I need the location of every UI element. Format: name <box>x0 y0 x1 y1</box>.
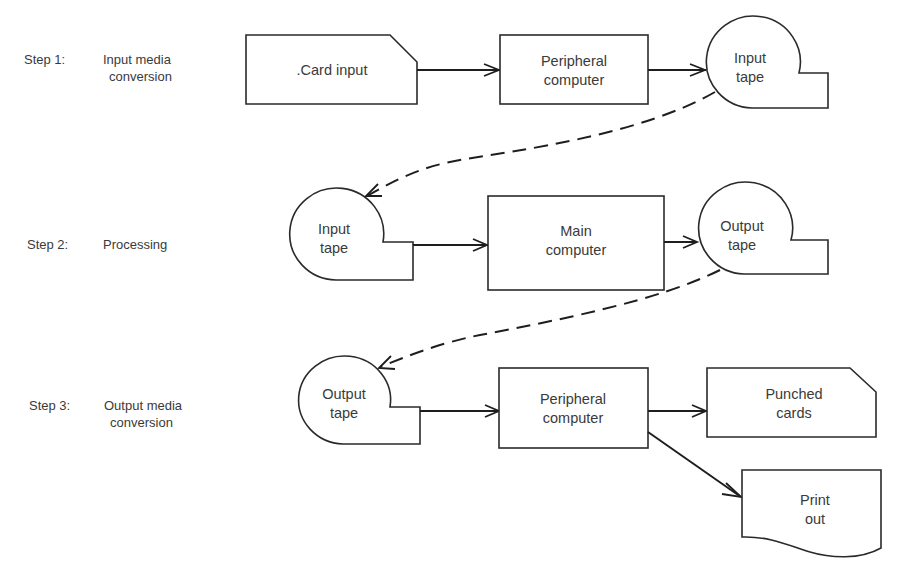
edge-input-tape-2-to-main-computer <box>413 239 488 251</box>
step-1-label: Step 1: Input media conversion <box>24 52 172 84</box>
step-2-label: Step 2: Processing <box>27 237 167 252</box>
peripheral-computer-1-line2: computer <box>544 72 605 88</box>
step-3-title-line1: Output media <box>104 398 183 413</box>
card-input-label: .Card input <box>297 62 368 78</box>
step-2-title-line1: Processing <box>103 237 167 252</box>
input-tape-2-line1: Input <box>318 221 350 237</box>
print-out-node: Print out <box>742 470 881 557</box>
card-input-node: .Card input <box>246 35 417 104</box>
input-tape-1-line2: tape <box>736 69 764 85</box>
input-tape-2-line2: tape <box>320 240 348 256</box>
flowchart-diagram: Step 1: Input media conversion Step 2: P… <box>0 0 903 580</box>
step-3-title-line2: conversion <box>110 415 173 430</box>
step-1-number: Step 1: <box>24 52 65 67</box>
print-out-line2: out <box>805 511 825 527</box>
step-2-number: Step 2: <box>27 237 68 252</box>
edge-peripheral-2-to-print-out <box>648 432 741 497</box>
punched-cards-line2: cards <box>776 405 811 421</box>
output-tape-2-line1: Output <box>322 386 366 402</box>
step-3-number: Step 3: <box>29 398 70 413</box>
step-1-title-line2: conversion <box>109 69 172 84</box>
output-tape-2-line2: tape <box>330 405 358 421</box>
output-tape-2-node: Output tape <box>299 356 420 444</box>
print-out-line1: Print <box>800 492 830 508</box>
process-box <box>499 368 648 448</box>
output-tape-1-line1: Output <box>720 218 764 234</box>
edge-main-computer-to-output-tape-1 <box>664 236 697 248</box>
punched-card-shape <box>707 368 876 437</box>
output-tape-1-line2: tape <box>728 237 756 253</box>
edge-output-tape-2-to-peripheral-2 <box>420 405 499 417</box>
peripheral-computer-2-node: Peripheral computer <box>499 368 648 448</box>
magnetic-tape-shape <box>706 16 828 108</box>
peripheral-computer-2-line1: Peripheral <box>540 391 606 407</box>
punched-cards-line1: Punched <box>765 386 822 402</box>
arrow-icon <box>366 184 382 196</box>
main-computer-line2: computer <box>546 242 607 258</box>
main-computer-line1: Main <box>560 223 591 239</box>
process-box <box>500 35 648 104</box>
step-1-title-line1: Input media <box>103 52 172 67</box>
peripheral-computer-1-node: Peripheral computer <box>500 35 648 104</box>
magnetic-tape-shape <box>290 188 413 280</box>
main-computer-node: Main computer <box>488 196 664 290</box>
input-tape-1-node: Input tape <box>706 16 828 108</box>
punched-cards-node: Punched cards <box>707 368 876 437</box>
edge-card-to-peripheral-1 <box>417 64 500 76</box>
input-tape-1-line1: Input <box>734 50 766 66</box>
peripheral-computer-1-line1: Peripheral <box>541 53 607 69</box>
edge-peripheral-1-to-input-tape-1 <box>648 64 706 76</box>
output-tape-1-node: Output tape <box>699 182 828 274</box>
edge-input-tape-1-to-input-tape-2 <box>366 92 715 196</box>
edge-peripheral-2-to-punched-cards <box>648 405 707 417</box>
peripheral-computer-2-line2: computer <box>543 410 604 426</box>
input-tape-2-node: Input tape <box>290 188 413 280</box>
step-3-label: Step 3: Output media conversion <box>29 398 183 430</box>
